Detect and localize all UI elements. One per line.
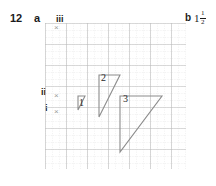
part-label-a: a [34,12,40,24]
triangle-label-2: 2 [101,72,106,83]
answer-whole-number: 1 [194,13,200,24]
triangle-label-1: 1 [79,97,84,108]
question-number: 12 [10,12,22,24]
fraction-numerator: 1 [200,10,206,17]
exercise-figure: 12 a b 112 iii × ii × i × [0,0,216,186]
answer-part-b: 112 [194,10,206,26]
part-label-b: b [185,12,191,23]
triangle-label-3: 3 [123,93,128,104]
grid-background [45,23,186,169]
mixed-fraction: 12 [200,10,206,26]
grid-and-triangles-svg [45,23,186,169]
fraction-denominator: 2 [200,19,206,26]
squared-paper-grid [45,23,186,169]
